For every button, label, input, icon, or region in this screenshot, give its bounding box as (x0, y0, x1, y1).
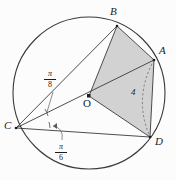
point-label-B: B (110, 6, 117, 17)
arc-length-label: 4 (131, 88, 136, 97)
vertex-dot-D (149, 136, 152, 139)
leader-pi-over-8 (47, 92, 53, 112)
angle-numerator-pi-6: π (55, 143, 67, 152)
leader-arrowhead-pi-over-6 (53, 123, 57, 129)
point-label-D: D (155, 136, 163, 147)
vertex-dot-C (15, 127, 18, 130)
geometry-figure: A B C D O 4 π 8 π 6 (0, 0, 176, 180)
angle-label-pi-over-6: π 6 (55, 143, 67, 162)
leader-pi-over-6 (53, 126, 62, 140)
segment-CD (16, 128, 150, 137)
vertex-dot-B (116, 25, 119, 28)
point-label-C: C (4, 120, 11, 131)
angle-arc-acd (49, 122, 50, 128)
point-label-O: O (83, 98, 91, 109)
angle-numerator-pi-8: π (44, 70, 56, 79)
angle-denominator-8: 8 (44, 80, 56, 89)
angle-denominator-6: 6 (55, 153, 67, 162)
geometry-canvas (0, 0, 176, 180)
angle-label-pi-over-8: π 8 (44, 70, 56, 89)
vertex-dot-A (153, 59, 156, 62)
point-label-A: A (159, 45, 166, 56)
